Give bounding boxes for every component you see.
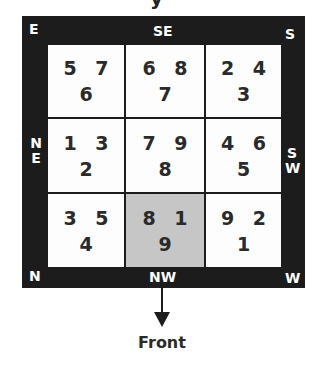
direction-label-sw: SW — [285, 146, 299, 176]
cell-top-numbers: 3 5 — [57, 205, 114, 231]
direction-label-w: W — [285, 271, 300, 285]
front-label: Front — [0, 333, 315, 352]
grid-cell-r2c3: 4 6 5 — [206, 119, 281, 192]
cell-top-numbers: 4 6 — [215, 130, 272, 156]
cell-center-number: 9 — [158, 231, 171, 257]
cell-center-number: 4 — [79, 231, 92, 257]
cell-center-number: 1 — [237, 231, 250, 257]
cell-center-number: 3 — [237, 81, 250, 107]
cell-center-number: 2 — [79, 156, 92, 182]
direction-label-ne: NE — [30, 136, 42, 166]
lo-shu-grid: 5 7 6 6 8 7 2 4 3 1 3 2 7 9 8 4 6 5 3 5 … — [48, 45, 277, 263]
grid-cell-r2c2: 7 9 8 — [126, 119, 204, 192]
cell-top-numbers: 8 1 — [136, 205, 193, 231]
direction-letter: W — [285, 161, 299, 176]
cell-center-number: 8 — [158, 156, 171, 182]
direction-letter: S — [285, 146, 299, 161]
arrow-down-icon — [154, 312, 170, 327]
cell-center-number: 6 — [79, 81, 92, 107]
cell-top-numbers: 7 9 — [136, 130, 193, 156]
cell-center-number: 7 — [158, 81, 171, 107]
cell-center-number: 5 — [237, 156, 250, 182]
grid-cell-r1c1: 5 7 6 — [48, 45, 124, 117]
direction-label-nw: NW — [149, 270, 176, 284]
direction-label-n: N — [29, 269, 41, 283]
grid-cell-r1c3: 2 4 3 — [206, 45, 281, 117]
front-arrow-shaft — [161, 288, 163, 313]
cell-top-numbers: 5 7 — [57, 55, 114, 81]
cell-top-numbers: 2 4 — [215, 55, 272, 81]
direction-letter: E — [30, 151, 42, 166]
direction-label-e: E — [29, 22, 39, 36]
grid-cell-r2c1: 1 3 2 — [48, 119, 124, 192]
direction-label-se: SE — [153, 24, 173, 38]
grid-cell-r3c2-highlighted: 8 1 9 — [126, 194, 204, 267]
grid-cell-r1c2: 6 8 7 — [126, 45, 204, 117]
grid-cell-r3c1: 3 5 4 — [48, 194, 124, 267]
cell-top-numbers: 9 2 — [215, 205, 272, 231]
cell-top-numbers: 1 3 — [57, 130, 114, 156]
direction-label-s: S — [285, 27, 295, 41]
cropped-title-fragment: y — [150, 0, 163, 10]
direction-letter: N — [30, 136, 42, 151]
cell-top-numbers: 6 8 — [136, 55, 193, 81]
grid-cell-r3c3: 9 2 1 — [206, 194, 281, 267]
